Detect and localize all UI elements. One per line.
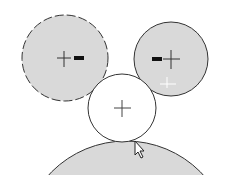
bottom-circle[interactable] bbox=[21, 141, 225, 184]
diagram-canvas bbox=[0, 0, 225, 184]
minus-marker-icon bbox=[74, 56, 84, 60]
middle-circle[interactable] bbox=[88, 74, 156, 142]
minus-marker-icon bbox=[152, 57, 162, 61]
